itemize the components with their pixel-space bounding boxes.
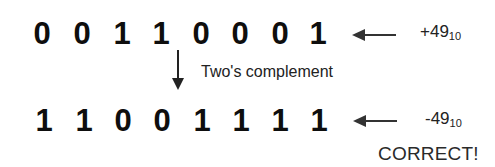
bit-2: 1: [226, 103, 256, 139]
left-arrow-icon: [353, 115, 397, 127]
top-binary-row: 0 0 1 1 0 0 0 1 +4910: [0, 16, 495, 56]
verdict-label: CORRECT!: [378, 143, 479, 165]
bit-3: 0: [186, 16, 216, 52]
bit-0: 1: [303, 16, 333, 52]
bit-4: 1: [146, 16, 176, 52]
bit-1: 0: [265, 16, 295, 52]
top-value-base: 10: [449, 30, 461, 42]
top-value-label: +4910: [420, 22, 461, 46]
bit-3: 1: [187, 103, 217, 139]
bit-4: 0: [147, 103, 177, 139]
bit-6: 0: [67, 16, 97, 52]
bit-1: 1: [265, 103, 295, 139]
bit-0: 1: [304, 103, 334, 139]
left-arrow-icon: [352, 29, 396, 41]
top-value: +49: [420, 22, 449, 41]
bit-2: 0: [225, 16, 255, 52]
operation-label: Two's complement: [201, 63, 333, 81]
down-arrow-icon: [172, 50, 184, 90]
bottom-binary-row: 1 1 0 0 1 1 1 1 -4910: [0, 103, 495, 143]
bit-7: 1: [29, 103, 59, 139]
bit-5: 0: [108, 103, 138, 139]
bit-7: 0: [27, 16, 57, 52]
bit-6: 1: [69, 103, 99, 139]
bottom-value-base: 10: [450, 117, 462, 129]
bottom-value: -49: [425, 109, 450, 128]
bit-5: 1: [107, 16, 137, 52]
bottom-value-label: -4910: [425, 109, 462, 133]
